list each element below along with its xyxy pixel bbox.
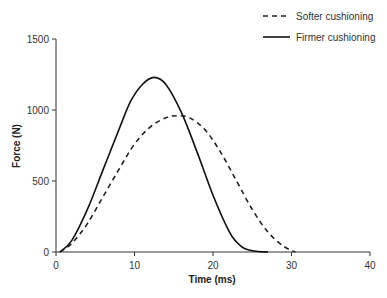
y-tick-label: 0 (43, 247, 49, 258)
y-tick-label: 500 (32, 176, 49, 187)
x-tick-label: 30 (286, 260, 298, 271)
firmer-cushioning-line (60, 77, 268, 252)
y-tick-label: 1000 (27, 105, 50, 116)
x-tick-label: 40 (364, 260, 376, 271)
y-ticks: 050010001500 (27, 34, 56, 258)
legend-softer: Softer cushioning (296, 11, 373, 22)
x-axis-label: Time (ms) (188, 274, 235, 285)
x-tick-label: 10 (129, 260, 141, 271)
force-time-chart: 050010001500 010203040 Time (ms) Force (… (0, 0, 387, 298)
y-axis-label: Force (N) (11, 124, 22, 168)
x-ticks: 010203040 (53, 252, 376, 271)
x-tick-label: 0 (53, 260, 59, 271)
legend-firmer: Firmer cushioning (296, 32, 375, 43)
x-tick-label: 20 (207, 260, 219, 271)
y-tick-label: 1500 (27, 34, 50, 45)
legend: Softer cushioning Firmer cushioning (263, 11, 375, 43)
softer-cushioning-line (60, 116, 295, 252)
